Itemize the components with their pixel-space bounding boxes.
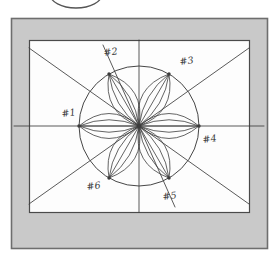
point-label-4: #4	[202, 132, 217, 145]
vertex-dot-6	[107, 176, 110, 179]
vertex-dot-5	[167, 176, 170, 179]
vertex-dot-2	[107, 72, 110, 75]
vertex-dot-4	[197, 124, 200, 127]
point-label-3: #3	[179, 54, 194, 67]
point-label-6: #6	[86, 179, 101, 192]
scanned-figure: #1#2#3#4#5#6	[0, 0, 278, 262]
figure-svg: #1#2#3#4#5#6	[0, 0, 278, 262]
vertex-dot-3	[167, 72, 170, 75]
point-label-1: #1	[61, 106, 76, 119]
center-dot	[137, 124, 141, 128]
vertex-dot-1	[77, 124, 80, 127]
point-label-2: #2	[103, 45, 118, 58]
point-label-5: #5	[162, 189, 177, 202]
